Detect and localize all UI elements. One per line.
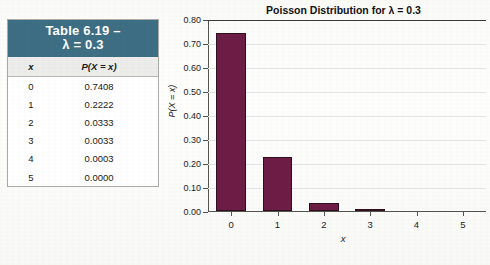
- cell-x: 2: [8, 117, 54, 128]
- gridline: [208, 116, 486, 117]
- x-tick-label: 4: [414, 219, 419, 230]
- table-row: 40.0003: [8, 150, 158, 168]
- plot-area: 0.000.100.200.300.400.500.600.700.80 012…: [208, 20, 486, 212]
- x-tick: [324, 212, 325, 216]
- column-header-x: x: [8, 61, 54, 72]
- x-tick-label: 1: [275, 219, 280, 230]
- y-tick-label: 0.30: [183, 135, 201, 145]
- cell-probability: 0.2222: [54, 99, 158, 110]
- y-tick-label: 0.10: [183, 183, 201, 193]
- x-tick: [278, 212, 279, 216]
- cell-probability: 0.7408: [54, 81, 158, 92]
- y-tick: [203, 140, 208, 141]
- y-tick-label: 0.70: [183, 39, 201, 49]
- cell-probability: 0.0003: [54, 153, 158, 164]
- column-header-probability: P(X = x): [54, 61, 158, 72]
- table-row: 30.0033: [8, 132, 158, 150]
- cell-x: 0: [8, 81, 54, 92]
- x-axis-label: x: [200, 233, 486, 244]
- cell-probability: 0.0000: [54, 172, 158, 183]
- gridline: [208, 188, 486, 189]
- table-column-headers: x P(X = x): [8, 57, 158, 77]
- cell-probability: 0.0333: [54, 117, 158, 128]
- table-row: 50.0000: [8, 168, 158, 186]
- gridline: [208, 92, 486, 93]
- y-tick: [203, 92, 208, 93]
- table-title-line2: λ = 0.3: [8, 38, 158, 52]
- table-title-line1: Table 6.19 –: [45, 23, 120, 38]
- x-tick-label: 5: [460, 219, 465, 230]
- table-row: 20.0333: [8, 113, 158, 131]
- y-tick-label: 0.60: [183, 63, 201, 73]
- y-tick: [203, 164, 208, 165]
- y-axis-label: P(X = x): [167, 66, 177, 136]
- gridline: [208, 44, 486, 45]
- chart-title: Poisson Distribution for λ = 0.3: [201, 4, 486, 16]
- plot-top-border: [208, 20, 486, 21]
- x-tick-label: 2: [321, 219, 326, 230]
- y-tick-label: 0.40: [183, 111, 201, 121]
- x-tick-label: 0: [229, 219, 234, 230]
- y-tick: [203, 68, 208, 69]
- table-body: 00.740810.222220.033330.003340.000350.00…: [8, 77, 158, 186]
- bar: [309, 203, 339, 211]
- gridline: [208, 140, 486, 141]
- y-tick: [203, 116, 208, 117]
- cell-x: 3: [8, 135, 54, 146]
- y-tick: [203, 44, 208, 45]
- table-title: Table 6.19 – λ = 0.3: [8, 20, 158, 57]
- cell-probability: 0.0033: [54, 135, 158, 146]
- x-tick: [463, 212, 464, 216]
- y-tick-label: 0.80: [183, 15, 201, 25]
- y-tick: [203, 212, 208, 213]
- y-tick: [203, 20, 208, 21]
- table-row: 00.7408: [8, 77, 158, 95]
- gridline: [208, 164, 486, 165]
- x-tick: [231, 212, 232, 216]
- x-axis-line: [208, 211, 486, 212]
- x-tick: [417, 212, 418, 216]
- figure-page: Table 6.19 – λ = 0.3 x P(X = x) 00.74081…: [0, 0, 490, 265]
- bar: [263, 157, 293, 210]
- y-tick-label: 0.20: [183, 159, 201, 169]
- table-row: 10.2222: [8, 95, 158, 113]
- cell-x: 5: [8, 172, 54, 183]
- x-tick-label: 3: [368, 219, 373, 230]
- cell-x: 1: [8, 99, 54, 110]
- cell-x: 4: [8, 153, 54, 164]
- probability-table: Table 6.19 – λ = 0.3 x P(X = x) 00.74081…: [7, 19, 159, 187]
- y-tick-label: 0.50: [183, 87, 201, 97]
- poisson-bar-chart: Poisson Distribution for λ = 0.3 P(X = x…: [163, 0, 490, 265]
- x-tick: [370, 212, 371, 216]
- bar: [216, 33, 246, 211]
- bar: [355, 209, 385, 211]
- y-tick: [203, 188, 208, 189]
- y-tick-label: 0.00: [183, 207, 201, 217]
- gridline: [208, 68, 486, 69]
